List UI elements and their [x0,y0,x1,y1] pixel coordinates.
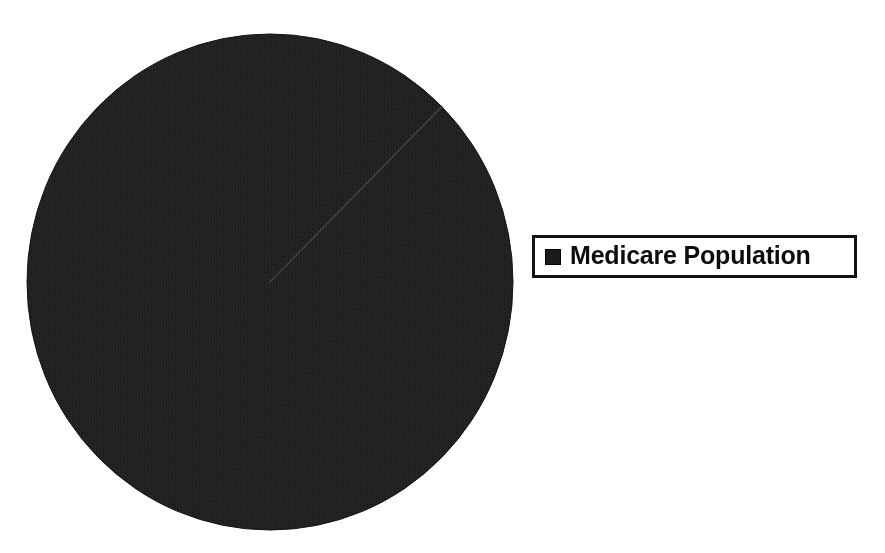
legend-swatch-icon [545,249,561,265]
chart-legend: Medicare Population [532,235,857,278]
legend-item-medicare-population[interactable]: Medicare Population [545,244,811,269]
legend-item-label: Medicare Population [570,243,811,268]
pie-chart-figure: Medicare Population [0,0,885,553]
pie-plot-area [26,33,514,532]
pie-svg [26,33,514,532]
